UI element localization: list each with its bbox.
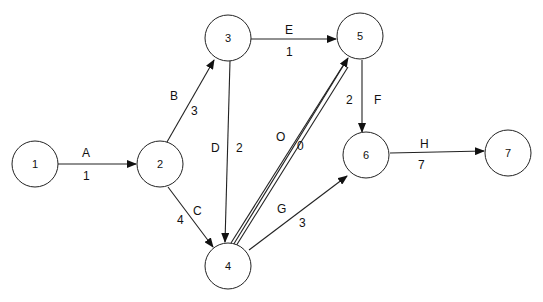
node-6-label: 6 [363, 149, 369, 161]
edge-label-B-duration: 3 [191, 104, 198, 118]
edge-label-G-duration: 3 [299, 216, 306, 230]
node-6: 6 [343, 132, 389, 178]
node-7: 7 [485, 130, 531, 176]
node-5-label: 5 [357, 30, 363, 42]
edge-label-E-duration: 1 [286, 45, 293, 59]
node-4: 4 [205, 243, 251, 289]
node-3-label: 3 [225, 32, 231, 44]
node-3: 3 [205, 15, 251, 61]
edge-label-H-duration: 7 [418, 158, 425, 172]
edge-label-A-activity: A [82, 146, 90, 160]
edge-label-F-activity: F [374, 93, 381, 107]
edge-O-dummy [231, 58, 348, 246]
node-1: 1 [12, 141, 58, 187]
edge-label-B-activity: B [170, 89, 178, 103]
node-4-label: 4 [225, 260, 231, 272]
edge-label-A-duration: 1 [83, 169, 90, 183]
edge-label-C-activity: C [193, 204, 202, 218]
edge-label-G-activity: G [277, 202, 286, 216]
edge-label-C-duration: 4 [177, 213, 184, 227]
edge-G [249, 176, 347, 250]
edge-label-O-duration: 0 [297, 139, 304, 153]
edge-label-D-duration: 2 [236, 141, 243, 155]
node-2-label: 2 [157, 158, 163, 170]
edge-label-E-activity: E [285, 23, 293, 37]
edge-label-D-activity: D [211, 141, 220, 155]
node-7-label: 7 [505, 147, 511, 159]
network-diagram: A 1 B 3 C 4 D 2 E 1 F 2 G 3 H 7 O 0 1 2 … [0, 0, 543, 302]
edge-D [225, 61, 230, 242]
edge-C [168, 187, 213, 247]
edge-label-H-activity: H [420, 137, 429, 151]
edge-label-O-activity: O [276, 130, 285, 144]
edge-label-F-duration: 2 [346, 93, 353, 107]
node-1-label: 1 [32, 158, 38, 170]
node-5: 5 [337, 13, 383, 59]
node-2: 2 [137, 141, 183, 187]
edge-H [390, 151, 484, 153]
